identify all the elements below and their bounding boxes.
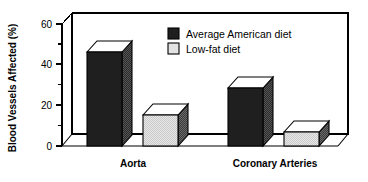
bar-coronary-arteries-low-fat-diet: [284, 121, 329, 146]
x-axis-category-labels: Aorta Coronary Arteries: [120, 158, 318, 169]
y-tick-label-20: 20: [41, 100, 53, 111]
bar-chart-3d: 0 20 40 60 Blood Vessels Affected (%): [0, 0, 368, 182]
legend-item-label-low-fat-diet: Low-fat diet: [186, 43, 240, 55]
bar-coronary-arteries-average-american-diet: [228, 77, 273, 146]
dark-square-swatch: [168, 28, 179, 39]
category-label-coronary-arteries: Coronary Arteries: [233, 158, 318, 169]
category-label-aorta: Aorta: [120, 158, 147, 169]
chart-legend: Average American diet Low-fat diet: [168, 28, 292, 55]
y-axis-tick-labels: 0 20 40 60: [41, 19, 53, 152]
bar-aorta-low-fat-diet: [143, 104, 188, 146]
chart-container: 0 20 40 60 Blood Vessels Affected (%): [0, 0, 368, 182]
y-tick-label-60: 60: [41, 19, 53, 30]
y-tick-label-40: 40: [41, 59, 53, 70]
y-axis-title: Blood Vessels Affected (%): [7, 24, 18, 153]
y-axis-ticks: [56, 24, 62, 146]
bar-aorta-average-american-diet: [87, 41, 132, 146]
y-tick-label-0: 0: [46, 141, 52, 152]
light-square-swatch: [168, 43, 179, 54]
legend-item-label-average-american-diet: Average American diet: [186, 28, 292, 40]
